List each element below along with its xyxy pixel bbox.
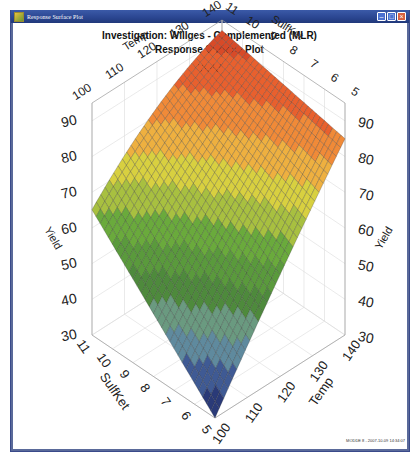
sulfket-tick-label-bottom: 8	[137, 381, 153, 396]
sulfket-tick-label-top: 11	[223, 0, 241, 18]
sulfket-tick-label-top: 8	[287, 42, 300, 58]
sulfket-tick-label-top: 6	[328, 70, 341, 86]
sulfket-tick-label-bottom: 9	[116, 367, 132, 382]
footer-stamp: MODDE 8 - 2007-10-09 14:34:07	[346, 438, 405, 443]
sulfket-tick-label-bottom: 7	[157, 394, 173, 409]
yield-tick-label-right: 80	[357, 149, 376, 168]
temp-tick-label-bottom: 110	[242, 400, 266, 426]
sulfket-tick-label-top: 9	[267, 29, 280, 45]
sulfket-tick-label-bottom: 10	[94, 350, 115, 370]
temp-tick-label-top: 100	[70, 80, 95, 103]
yield-tick-label-left: 50	[60, 254, 79, 273]
sulfket-tick-label-bottom: 6	[178, 408, 194, 423]
temp-tick-label-top: 140	[200, 0, 225, 20]
temp-tick-label-top: 110	[102, 60, 126, 82]
yield-tick-label-left: 30	[60, 326, 79, 345]
yield-tick-label-left: 80	[60, 147, 79, 166]
yield-tick-label-right: 70	[357, 185, 376, 204]
temp-tick-label-bottom: 120	[274, 379, 299, 405]
yield-tick-label-right: 40	[357, 292, 376, 311]
yield-tick-label-right: 60	[357, 221, 376, 240]
surface-plot[interactable]: 100110120130140Temp567891011SulfKet30405…	[0, 0, 419, 456]
temp-tick-label-top: 130	[167, 18, 192, 41]
sulfket-tick-label-top: 7	[308, 56, 321, 72]
yield-tick-label-left: 70	[60, 183, 79, 202]
yield-tick-label-right: 90	[357, 114, 376, 133]
sulfket-tick-label-top: 5	[349, 84, 362, 100]
yield-tick-label-left: 40	[60, 290, 79, 309]
yield-axis-title-right: Yield	[372, 225, 394, 252]
yield-tick-label-left: 90	[60, 111, 79, 130]
yield-tick-label-left: 60	[60, 219, 79, 238]
yield-tick-label-right: 50	[357, 256, 376, 275]
sulfket-tick-label-top: 10	[243, 13, 262, 32]
